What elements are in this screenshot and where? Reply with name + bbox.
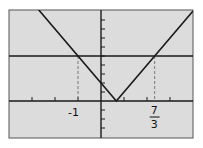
- label-neg-one: -1: [68, 106, 79, 119]
- label-fraction-numerator: 7: [151, 104, 158, 117]
- graph: -1 7 3: [0, 0, 203, 148]
- label-fraction-denominator: 3: [151, 118, 158, 131]
